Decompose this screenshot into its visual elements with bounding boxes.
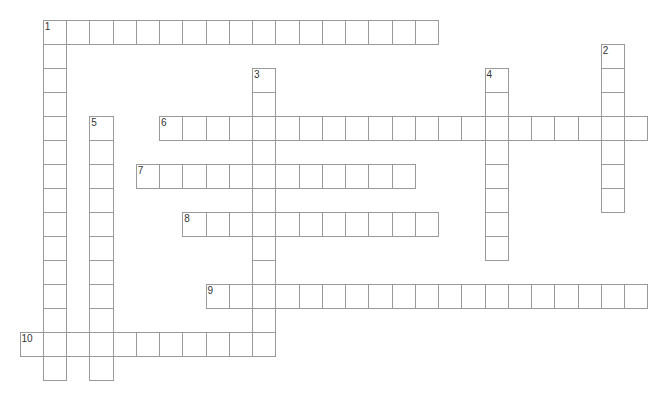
- crossword-cell[interactable]: [601, 140, 625, 165]
- crossword-cell[interactable]: [113, 332, 137, 357]
- crossword-cell[interactable]: [206, 20, 230, 45]
- crossword-cell[interactable]: [182, 20, 206, 45]
- crossword-cell[interactable]: [89, 356, 113, 381]
- crossword-cell[interactable]: 8: [182, 212, 206, 237]
- crossword-cell[interactable]: [299, 212, 323, 237]
- crossword-cell[interactable]: [159, 332, 183, 357]
- crossword-cell[interactable]: [89, 236, 113, 261]
- crossword-cell[interactable]: [252, 260, 276, 285]
- crossword-cell[interactable]: [182, 116, 206, 141]
- crossword-cell[interactable]: [43, 284, 67, 309]
- crossword-cell[interactable]: [43, 332, 67, 357]
- crossword-cell[interactable]: [89, 332, 113, 357]
- crossword-cell[interactable]: [229, 332, 253, 357]
- crossword-cell[interactable]: [299, 20, 323, 45]
- crossword-cell[interactable]: [43, 236, 67, 261]
- crossword-cell[interactable]: [89, 212, 113, 237]
- crossword-cell[interactable]: [415, 20, 439, 45]
- crossword-cell[interactable]: [485, 164, 509, 189]
- crossword-cell[interactable]: [345, 212, 369, 237]
- crossword-cell[interactable]: [252, 236, 276, 261]
- crossword-cell[interactable]: [229, 20, 253, 45]
- crossword-cell[interactable]: [182, 164, 206, 189]
- crossword-cell[interactable]: [508, 116, 532, 141]
- crossword-cell[interactable]: [345, 164, 369, 189]
- crossword-cell[interactable]: [415, 284, 439, 309]
- crossword-cell[interactable]: [624, 116, 648, 141]
- crossword-cell[interactable]: [368, 212, 392, 237]
- crossword-cell[interactable]: [252, 164, 276, 189]
- crossword-cell[interactable]: [252, 188, 276, 213]
- crossword-cell[interactable]: [299, 116, 323, 141]
- crossword-cell[interactable]: [252, 140, 276, 165]
- crossword-cell[interactable]: [66, 20, 90, 45]
- crossword-cell[interactable]: [136, 332, 160, 357]
- crossword-cell[interactable]: [601, 188, 625, 213]
- crossword-cell[interactable]: [229, 212, 253, 237]
- crossword-cell[interactable]: [392, 116, 416, 141]
- crossword-cell[interactable]: [229, 164, 253, 189]
- crossword-cell[interactable]: [182, 332, 206, 357]
- crossword-cell[interactable]: [392, 212, 416, 237]
- crossword-cell[interactable]: 10: [20, 332, 44, 357]
- crossword-cell[interactable]: [43, 92, 67, 117]
- crossword-cell[interactable]: [159, 164, 183, 189]
- crossword-cell[interactable]: [415, 212, 439, 237]
- crossword-cell[interactable]: [485, 236, 509, 261]
- crossword-cell[interactable]: [299, 284, 323, 309]
- crossword-cell[interactable]: [368, 284, 392, 309]
- crossword-cell[interactable]: [554, 284, 578, 309]
- crossword-cell[interactable]: [43, 212, 67, 237]
- crossword-cell[interactable]: [485, 212, 509, 237]
- crossword-cell[interactable]: [66, 332, 90, 357]
- crossword-cell[interactable]: [322, 284, 346, 309]
- crossword-cell[interactable]: [43, 164, 67, 189]
- crossword-cell[interactable]: [461, 116, 485, 141]
- crossword-cell[interactable]: [624, 284, 648, 309]
- crossword-cell[interactable]: [136, 20, 160, 45]
- crossword-cell[interactable]: [299, 164, 323, 189]
- crossword-cell[interactable]: 6: [159, 116, 183, 141]
- crossword-cell[interactable]: 9: [206, 284, 230, 309]
- crossword-cell[interactable]: [43, 68, 67, 93]
- crossword-cell[interactable]: [531, 116, 555, 141]
- crossword-cell[interactable]: [485, 284, 509, 309]
- crossword-cell[interactable]: [275, 164, 299, 189]
- crossword-cell[interactable]: [43, 356, 67, 381]
- crossword-cell[interactable]: [322, 164, 346, 189]
- crossword-cell[interactable]: [485, 140, 509, 165]
- crossword-cell[interactable]: [322, 20, 346, 45]
- crossword-cell[interactable]: [368, 116, 392, 141]
- crossword-cell[interactable]: [89, 140, 113, 165]
- crossword-cell[interactable]: [206, 212, 230, 237]
- crossword-cell[interactable]: [206, 164, 230, 189]
- crossword-cell[interactable]: [252, 284, 276, 309]
- crossword-cell[interactable]: [601, 116, 625, 141]
- crossword-cell[interactable]: [392, 164, 416, 189]
- crossword-cell[interactable]: [43, 260, 67, 285]
- crossword-cell[interactable]: 7: [136, 164, 160, 189]
- crossword-cell[interactable]: [159, 20, 183, 45]
- crossword-cell[interactable]: [392, 20, 416, 45]
- crossword-cell[interactable]: [392, 284, 416, 309]
- crossword-cell[interactable]: [368, 20, 392, 45]
- crossword-cell[interactable]: [252, 212, 276, 237]
- crossword-cell[interactable]: [438, 284, 462, 309]
- crossword-cell[interactable]: [601, 284, 625, 309]
- crossword-cell[interactable]: 1: [43, 20, 67, 45]
- crossword-cell[interactable]: [43, 140, 67, 165]
- crossword-cell[interactable]: [345, 20, 369, 45]
- crossword-cell[interactable]: [229, 116, 253, 141]
- crossword-cell[interactable]: [322, 212, 346, 237]
- crossword-cell[interactable]: [345, 284, 369, 309]
- crossword-cell[interactable]: [415, 116, 439, 141]
- crossword-cell[interactable]: [485, 188, 509, 213]
- crossword-cell[interactable]: [438, 116, 462, 141]
- crossword-cell[interactable]: [485, 92, 509, 117]
- crossword-cell[interactable]: [275, 284, 299, 309]
- crossword-cell[interactable]: [485, 116, 509, 141]
- crossword-cell[interactable]: 5: [89, 116, 113, 141]
- crossword-cell[interactable]: [89, 164, 113, 189]
- crossword-cell[interactable]: [206, 332, 230, 357]
- crossword-cell[interactable]: [554, 116, 578, 141]
